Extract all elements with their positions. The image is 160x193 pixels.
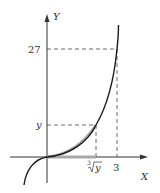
y-axis-label: Y bbox=[53, 11, 61, 22]
y-axis-arrow-icon bbox=[45, 14, 50, 22]
tick-label-27: 27 bbox=[28, 44, 41, 55]
x-axis-arrow-icon bbox=[140, 155, 148, 160]
cuberoot-radicand: y bbox=[94, 162, 101, 173]
tick-label-y: y bbox=[35, 119, 42, 130]
highlight-curve-segment bbox=[47, 125, 96, 157]
tick-label-cuberoot-y: 3 y bbox=[87, 159, 102, 173]
cubic-graph: Y X 27 y 3 3 y bbox=[0, 0, 160, 193]
x-axis-label: X bbox=[140, 171, 149, 182]
cuberoot-index: 3 bbox=[87, 159, 91, 166]
tick-label-3: 3 bbox=[113, 162, 119, 173]
